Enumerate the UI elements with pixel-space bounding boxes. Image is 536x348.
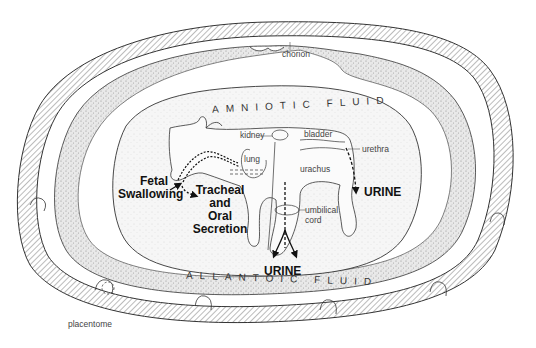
label-umbilical-cord-line1: umbilical (305, 206, 338, 215)
label-chorion: chorion (282, 50, 310, 59)
label-lung: lung (244, 155, 260, 164)
label-urethra: urethra (362, 145, 389, 154)
label-oral: Oral (192, 210, 248, 222)
label-and: and (192, 197, 248, 209)
label-fetal: Fetal (132, 175, 176, 187)
diagram-canvas: chorion AMNIOTIC FLUID kidney bladder ur… (0, 0, 536, 348)
label-kidney: kidney (240, 131, 265, 140)
label-swallowing: Swallowing (118, 188, 182, 200)
label-bladder: bladder (304, 130, 332, 139)
label-umbilical-cord-line2: cord (305, 216, 322, 225)
diagram-artwork (0, 0, 536, 348)
label-urine-amniotic: URINE (364, 186, 401, 198)
label-tracheal: Tracheal (192, 184, 248, 196)
label-secretion: Secretion (190, 223, 250, 235)
label-placentome: placentome (68, 320, 112, 329)
label-urachus: urachus (300, 165, 330, 174)
